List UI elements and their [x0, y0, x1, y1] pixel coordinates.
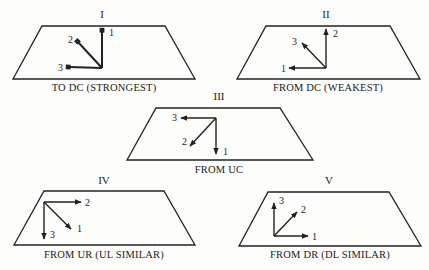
panel-caption: FROM DR (DL SIMILAR) — [270, 249, 390, 261]
panel-caption: FROM UR (UL SIMILAR) — [44, 249, 164, 261]
panel-iii: 123IIIFROM UC — [127, 90, 313, 175]
panel-title: III — [214, 90, 225, 102]
panel-caption: FROM DC (WEAKEST) — [273, 82, 383, 94]
trapezoid-plane — [237, 26, 420, 79]
vector-label: 1 — [281, 63, 286, 74]
vector-label: 1 — [109, 27, 114, 38]
panel-title: IV — [98, 174, 110, 186]
vector-label: 3 — [279, 195, 284, 206]
panel-iv: 123IVFROM UR (UL SIMILAR) — [14, 174, 195, 261]
vector-label: 3 — [58, 62, 63, 73]
panel-title: V — [325, 174, 333, 186]
panel-ii: 123IIFROM DC (WEAKEST) — [237, 8, 420, 94]
trapezoid-plane — [127, 108, 313, 160]
arrow-vector-2-icon — [190, 118, 216, 146]
arrow-vector-2-icon — [274, 212, 297, 236]
vector-label: 3 — [292, 36, 297, 47]
vector-label: 2 — [85, 197, 90, 208]
vector-label: 3 — [172, 112, 177, 123]
inward-vector-3-icon — [69, 67, 102, 68]
vector-label: 1 — [312, 231, 317, 242]
vector-label: 3 — [50, 229, 55, 240]
diagram-canvas: 123ITO DC (STRONGEST)123IIFROM DC (WEAKE… — [0, 0, 429, 270]
trapezoid-plane — [13, 26, 195, 79]
trapezoid-plane — [14, 191, 195, 245]
vector-label: 2 — [301, 204, 306, 215]
vector-diagram-figure: 123ITO DC (STRONGEST)123IIFROM DC (WEAKE… — [0, 0, 429, 270]
panel-caption: FROM UC — [195, 164, 243, 175]
panel-title: II — [322, 8, 330, 20]
panel-i: 123ITO DC (STRONGEST) — [13, 8, 195, 94]
vector-label: 2 — [68, 34, 73, 45]
vector-label: 1 — [223, 146, 228, 157]
panel-title: I — [100, 8, 104, 20]
panel-caption: TO DC (STRONGEST) — [52, 82, 157, 94]
arrow-vector-3-icon — [302, 43, 326, 68]
vector-label: 1 — [77, 223, 82, 234]
arrow-vector-1-icon — [44, 202, 71, 229]
inward-vector-2-icon — [78, 42, 102, 68]
panel-v: 123VFROM DR (DL SIMILAR) — [239, 174, 421, 261]
vector-label: 2 — [333, 28, 338, 39]
trapezoid-plane — [239, 192, 421, 246]
vector-label: 2 — [182, 136, 187, 147]
